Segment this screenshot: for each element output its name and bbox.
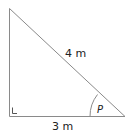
base-label: 3 m	[52, 120, 73, 133]
right-angle-marker	[13, 108, 18, 114]
triangle-diagram: 4 m 3 m P	[0, 0, 131, 134]
hypotenuse-label: 4 m	[65, 47, 86, 60]
angle-p-label: P	[97, 104, 104, 115]
right-triangle	[10, 9, 126, 117]
